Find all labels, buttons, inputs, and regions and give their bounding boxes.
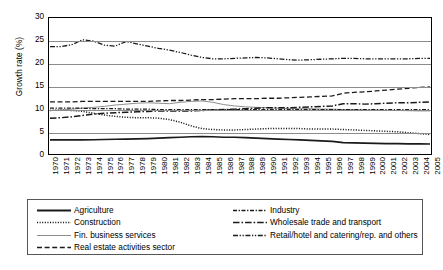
x-tick-label: 1987: [238, 157, 246, 175]
legend-item: Wholesale trade and transport: [233, 217, 418, 230]
y-tick-label: 10: [14, 105, 44, 113]
legend-item-label: Industry: [270, 206, 300, 215]
x-tick-label: 1994: [314, 157, 322, 175]
gridline: [49, 87, 431, 88]
legend-item-label: Construction: [74, 218, 121, 227]
x-tick-label: 1996: [336, 157, 344, 175]
x-tick-label: 1984: [205, 157, 213, 175]
x-tick-label: 1979: [150, 157, 158, 175]
gridline: [49, 133, 431, 134]
series-line: [50, 40, 430, 60]
legend-line-swatch-icon: [37, 230, 71, 241]
legend-item: Fin. business services: [37, 229, 175, 242]
legend-column-right: IndustryWholesale trade and transportRet…: [233, 204, 418, 242]
legend-line-swatch-icon: [233, 230, 267, 241]
x-axis-ticks: 1970197119721973197419751976197719781979…: [48, 157, 432, 197]
legend-item-label: Agriculture: [74, 206, 114, 215]
x-tick-label: 1981: [172, 157, 180, 175]
plot-area: [48, 17, 432, 155]
x-tick-label: 1983: [194, 157, 202, 175]
x-tick-label: 1970: [52, 157, 60, 175]
gridline: [49, 41, 431, 42]
legend-line-swatch-icon: [233, 217, 267, 228]
x-tick-label: 1992: [292, 157, 300, 175]
series-line: [50, 87, 430, 102]
x-tick-label: 1990: [270, 157, 278, 175]
legend-item: Retail/hotel and catering/rep. and other…: [233, 229, 418, 242]
legend-item: Real estate activities sector: [37, 242, 175, 255]
x-tick-label: 2005: [434, 157, 442, 175]
legend-item-label: Wholesale trade and transport: [270, 218, 381, 227]
x-tick-label: 1995: [325, 157, 333, 175]
legend-line-swatch-icon: [233, 205, 267, 216]
gridline: [49, 64, 431, 65]
x-tick-label: 1972: [74, 157, 82, 175]
x-tick-label: 1975: [107, 157, 115, 175]
x-tick-label: 2000: [379, 157, 387, 175]
legend-line-swatch-icon: [37, 205, 71, 216]
x-tick-label: 1973: [85, 157, 93, 175]
y-tick-label: 0: [14, 151, 44, 159]
x-tick-label: 2004: [423, 157, 431, 175]
x-tick-label: 2003: [412, 157, 420, 175]
x-tick-label: 1991: [281, 157, 289, 175]
chart-legend: AgricultureConstructionFin. business ser…: [27, 199, 423, 255]
legend-item: Construction: [37, 217, 175, 230]
x-tick-label: 1978: [139, 157, 147, 175]
series-line: [50, 137, 430, 144]
x-tick-label: 1998: [358, 157, 366, 175]
chart-figure: Growth rate (%) 302520151050 19701971197…: [0, 0, 443, 270]
legend-item-label: Real estate activities sector: [74, 243, 175, 252]
x-tick-label: 1976: [117, 157, 125, 175]
x-tick-label: 1989: [259, 157, 267, 175]
x-tick-label: 1985: [216, 157, 224, 175]
gridline: [49, 110, 431, 111]
x-tick-label: 1999: [369, 157, 377, 175]
x-tick-label: 2002: [401, 157, 409, 175]
legend-line-swatch-icon: [37, 217, 71, 228]
x-tick-label: 2001: [390, 157, 398, 175]
x-tick-label: 1993: [303, 157, 311, 175]
x-tick-label: 1988: [248, 157, 256, 175]
y-tick-label: 25: [14, 36, 44, 44]
x-tick-label: 1986: [227, 157, 235, 175]
y-tick-label: 30: [14, 13, 44, 21]
x-tick-label: 1971: [63, 157, 71, 175]
x-tick-label: 1977: [128, 157, 136, 175]
y-tick-label: 20: [14, 59, 44, 67]
x-tick-label: 1980: [161, 157, 169, 175]
legend-column-left: AgricultureConstructionFin. business ser…: [37, 204, 175, 254]
legend-item-label: Fin. business services: [74, 231, 156, 240]
x-tick-label: 1982: [183, 157, 191, 175]
legend-item: Agriculture: [37, 204, 175, 217]
y-tick-label: 5: [14, 128, 44, 136]
x-tick-label: 1974: [96, 157, 104, 175]
y-tick-label: 15: [14, 82, 44, 90]
legend-line-swatch-icon: [37, 242, 71, 253]
legend-item: Industry: [233, 204, 418, 217]
x-tick-label: 1997: [347, 157, 355, 175]
legend-item-label: Retail/hotel and catering/rep. and other…: [270, 231, 418, 240]
